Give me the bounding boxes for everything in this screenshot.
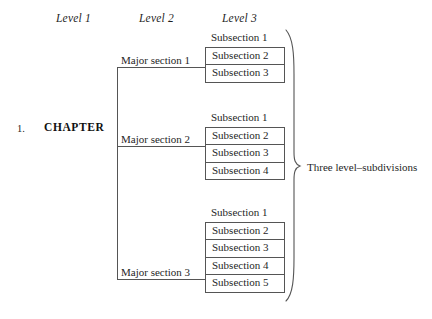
major-section-1-label: Major section 1 (121, 54, 190, 66)
subsection-label: Subsection 3 (212, 241, 269, 253)
subsection-row: Subsection 2 (205, 223, 285, 241)
subsection-row: Subsection 1 (205, 110, 285, 128)
subsection-label: Subsection 1 (211, 111, 268, 123)
subsection-row: Subsection 2 (205, 48, 285, 66)
brace-summary-label: Three level–subdivisions (307, 161, 417, 173)
level-2-rule-3 (117, 279, 205, 280)
level-2-rule-2 (117, 146, 205, 147)
subsection-row: Subsection 1 (205, 205, 285, 223)
major-section-2-label: Major section 2 (121, 133, 190, 145)
subsection-group-2: Subsection 1Subsection 2Subsection 3Subs… (205, 110, 285, 180)
subsection-label: Subsection 1 (211, 206, 268, 218)
major-section-3-label: Major section 3 (121, 266, 190, 278)
column-header-level-1: Level 1 (56, 12, 91, 24)
subsection-row: Subsection 5 (205, 275, 285, 293)
subsection-label: Subsection 4 (212, 259, 269, 271)
subsection-row: Subsection 3 (205, 240, 285, 258)
level-2-rule-1 (117, 67, 205, 68)
subsection-row: Subsection 4 (205, 258, 285, 276)
level-2-spine (117, 67, 118, 280)
subsection-label: Subsection 4 (212, 164, 269, 176)
subsection-label: Subsection 5 (212, 276, 269, 288)
grouping-brace-icon (283, 28, 309, 303)
chapter-label: CHAPTER (44, 121, 104, 133)
chapter-number: 1. (17, 123, 25, 134)
subsection-label: Subsection 2 (212, 129, 269, 141)
column-header-level-2: Level 2 (139, 12, 174, 24)
chapter-hierarchy-diagram: Level 1 Level 2 Level 3 1. CHAPTER Major… (0, 0, 432, 319)
subsection-label: Subsection 2 (212, 224, 269, 236)
subsection-row: Subsection 3 (205, 145, 285, 163)
subsection-row: Subsection 4 (205, 163, 285, 181)
subsection-label: Subsection 2 (212, 49, 269, 61)
subsection-group-3: Subsection 1Subsection 2Subsection 3Subs… (205, 205, 285, 293)
subsection-label: Subsection 3 (212, 146, 269, 158)
subsection-row: Subsection 2 (205, 128, 285, 146)
subsection-group-1: Subsection 1Subsection 2Subsection 3 (205, 30, 285, 83)
subsection-label: Subsection 1 (211, 31, 268, 43)
subsection-label: Subsection 3 (212, 66, 269, 78)
subsection-row: Subsection 1 (205, 30, 285, 48)
column-header-level-3: Level 3 (222, 12, 257, 24)
subsection-row: Subsection 3 (205, 65, 285, 83)
